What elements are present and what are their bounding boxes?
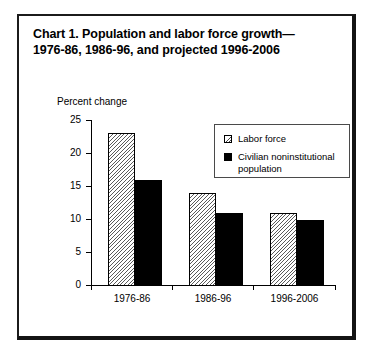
chart-legend: Labor force Civilian noninstitutional po… bbox=[214, 124, 350, 178]
bar-civilian-population-1986-96 bbox=[216, 213, 243, 286]
hatched-square-icon bbox=[224, 135, 232, 143]
bar-civilian-population-1976-86 bbox=[135, 180, 162, 286]
y-tick-mark-15 bbox=[86, 186, 91, 187]
bar-labor-force-1986-96 bbox=[189, 193, 216, 286]
legend-entry-labor-force: Labor force bbox=[224, 133, 286, 145]
y-tick-label-25: 25 bbox=[39, 114, 81, 125]
x-tick-mark-2 bbox=[253, 285, 254, 290]
x-axis-group-label-2: 1986-96 bbox=[172, 293, 254, 304]
bar-labor-force-1976-86 bbox=[108, 133, 135, 286]
x-axis-group-label-1: 1976-86 bbox=[91, 293, 173, 304]
y-tick-label-15: 15 bbox=[39, 180, 81, 191]
black-square-icon bbox=[224, 153, 232, 161]
plot-region: Percent change 0 5 10 15 20 25 bbox=[19, 16, 354, 338]
legend-entry-civilian-population: Civilian noninstitutional population bbox=[224, 151, 346, 174]
y-tick-label-10: 10 bbox=[39, 213, 81, 224]
y-axis-line bbox=[91, 120, 92, 286]
bar-labor-force-1996-2006 bbox=[270, 213, 297, 286]
x-tick-mark-1 bbox=[172, 285, 173, 290]
y-tick-mark-10 bbox=[86, 219, 91, 220]
y-tick-label-0: 0 bbox=[39, 279, 81, 290]
x-tick-mark-start bbox=[91, 285, 92, 290]
y-tick-mark-20 bbox=[86, 153, 91, 154]
x-axis-group-label-3: 1996-2006 bbox=[253, 293, 336, 304]
y-tick-mark-5 bbox=[86, 252, 91, 253]
bar-civilian-population-1996-2006 bbox=[297, 220, 324, 286]
y-tick-mark-25 bbox=[86, 120, 91, 121]
y-tick-label-20: 20 bbox=[39, 147, 81, 158]
y-tick-label-5: 5 bbox=[39, 246, 81, 257]
chart-figure-frame: Chart 1. Population and labor force grow… bbox=[17, 14, 356, 340]
x-tick-mark-end bbox=[335, 285, 336, 290]
legend-label-civilian-population: Civilian noninstitutional population bbox=[238, 151, 346, 174]
legend-label-labor-force: Labor force bbox=[238, 133, 286, 145]
